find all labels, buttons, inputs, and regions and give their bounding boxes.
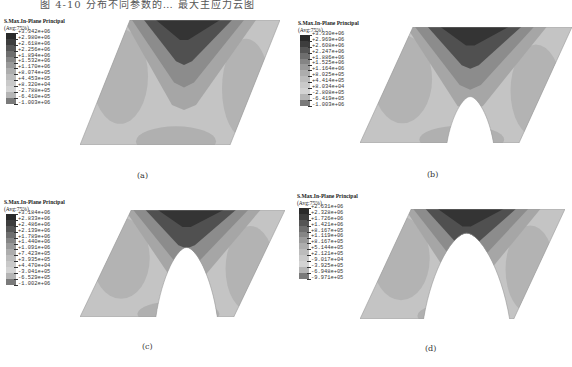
legend-labels: +3.184e+06+2.833e+06+2.486e+06+2.139e+06… (18, 211, 50, 288)
legend-body: +3.330e+06+2.969e+06+2.608e+06+2.247e+06… (298, 34, 359, 115)
legend-d: S.Max.In-Plane Principal (Avg:75%) +2.63… (297, 193, 358, 288)
legend-title: S.Max.In-Plane Principal (298, 20, 359, 27)
contour-band-bottom (417, 303, 499, 320)
legend-title: S.Max.In-Plane Principal (4, 18, 65, 25)
legend-a: S.Max.In-Plane Principal (Avg:75%) +3.34… (4, 18, 65, 113)
legend-labels: +3.342e+06+2.980e+06+2.618e+06+2.256e+06… (18, 30, 50, 107)
legend-value: -1.003e+06 (312, 103, 344, 109)
figure-header-fragment: 图 4-10 分布不同参数的… 最大主应力云图 (40, 0, 255, 11)
legend-body: +2.631e+06+2.328e+06+1.726e+06+1.421e+06… (297, 207, 358, 288)
legend-b: S.Max.In-Plane Principal (Avg:75%) +3.33… (298, 20, 359, 115)
legend-value: -1.003e+06 (18, 101, 50, 107)
legend-labels: +2.631e+06+2.328e+06+1.726e+06+1.421e+06… (311, 205, 343, 282)
contour-plot-b (360, 27, 572, 143)
contour-bands (80, 210, 285, 317)
legend-title: S.Max.In-Plane Principal (4, 199, 65, 206)
legend-c: S.Max.In-Plane Principal (Avg:75%) +3.18… (4, 199, 65, 294)
legend-title: S.Max.In-Plane Principal (297, 193, 358, 200)
contour-bands (360, 27, 572, 143)
legend-value: -1.002e+06 (18, 282, 50, 288)
contour-plot-a (80, 20, 280, 145)
caption-c: (c) (142, 342, 153, 351)
contour-plot-d (360, 209, 565, 319)
legend-value: -9.971e+05 (311, 276, 343, 282)
legend-body: +3.184e+06+2.833e+06+2.486e+06+2.139e+06… (4, 213, 65, 294)
caption-b: (b) (427, 170, 438, 179)
caption-a: (a) (137, 171, 148, 180)
legend-body: +3.342e+06+2.980e+06+2.618e+06+2.256e+06… (4, 32, 65, 113)
caption-d: (d) (425, 344, 436, 353)
legend-labels: +3.330e+06+2.969e+06+2.608e+06+2.247e+06… (312, 32, 344, 109)
contour-plot-c (80, 210, 285, 317)
contour-bands (80, 20, 280, 145)
contour-bands (360, 209, 565, 319)
